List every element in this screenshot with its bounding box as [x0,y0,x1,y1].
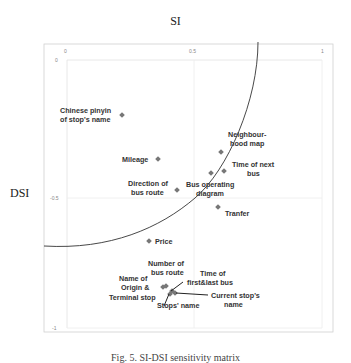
label-origin-2: Origin & [121,283,149,292]
marker-time-next [221,168,227,174]
label-current-2: name [224,300,243,309]
y-tick-1: -1 [52,325,57,331]
label-time-next-2: bus [247,169,260,178]
x-tick-05: 0.5 [189,48,196,54]
label-busop-2: diagram [196,189,224,198]
label-pinyin-2: of stop's name [60,115,110,124]
label-number-1: Number of [148,259,185,268]
label-stops: Stops' name [157,301,199,310]
label-first-last-2: first&last bus [187,278,233,287]
label-time-next-1: Time of next [232,160,275,169]
x-tick-1: 1 [321,48,324,54]
label-origin-3: Terminal stop [109,293,156,302]
label-neighbourhood-2: hood map [230,139,265,148]
marker-neighbourhood [218,149,224,155]
label-price: Price [155,237,173,246]
label-current-1: Current stop's [211,291,260,300]
label-pinyin-1: Chinese pinyin [60,106,111,115]
y-tick-05: -0.5 [50,195,59,201]
label-direction-1: Direction of [128,179,169,188]
label-number-2: bus route [151,268,184,277]
marker-mileage [155,156,161,162]
label-neighbourhood-1: Neighbour- [228,130,267,139]
y-tick-0: 0 [55,57,58,63]
label-direction-2: bus route [131,188,164,197]
marker-pinyin [119,112,125,118]
label-busop-1: Bus operating [186,180,234,189]
figure-caption: Fig. 5. SI-DSI sensitivity matrix [0,352,351,363]
marker-price [146,238,152,244]
label-mileage: Mileage [122,155,148,164]
label-tranfer: Tranfer [225,209,250,218]
label-first-last-1: Time of [200,269,226,278]
marker-bus-operating [208,170,214,176]
label-origin-1: Name of [119,274,148,283]
x-tick-0: 0 [64,48,67,54]
marker-tranfer [215,204,221,210]
marker-direction [174,187,180,193]
